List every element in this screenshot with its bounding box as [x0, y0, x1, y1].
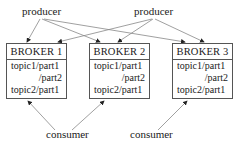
- producer-label-2: producer: [134, 5, 173, 17]
- partition: topic2/part1: [90, 84, 149, 96]
- consumer-label-2: consumer: [130, 128, 173, 140]
- partition: topic1/part1: [173, 60, 232, 72]
- broker-1: BROKER 1 topic1/part1 /part2 topic2/part…: [6, 43, 67, 99]
- partition: topic1/part1: [90, 60, 149, 72]
- partition: topic2/part1: [7, 84, 66, 96]
- broker-title: BROKER 2: [90, 44, 149, 60]
- partition: /part2: [90, 72, 149, 84]
- partition: /part2: [173, 72, 232, 84]
- partition: topic2/part1: [173, 84, 232, 96]
- producer-label-1: producer: [22, 5, 61, 17]
- broker-2: BROKER 2 topic1/part1 /part2 topic2/part…: [89, 43, 150, 99]
- broker-3: BROKER 3 topic1/part1 /part2 topic2/part…: [172, 43, 233, 99]
- broker-title: BROKER 1: [7, 44, 66, 60]
- broker-title: BROKER 3: [173, 44, 232, 60]
- partition: topic1/part1: [7, 60, 66, 72]
- consumer-label-1: consumer: [46, 128, 89, 140]
- partition: /part2: [7, 72, 66, 84]
